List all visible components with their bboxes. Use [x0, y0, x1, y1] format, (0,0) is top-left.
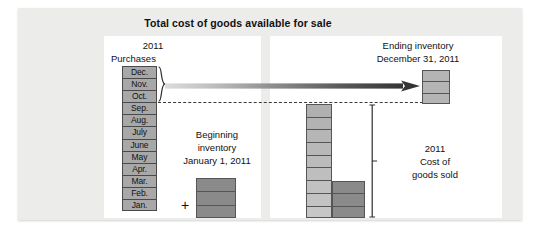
cogs-light-segment: [306, 129, 332, 142]
beginning-inventory-line1: Beginning: [164, 128, 270, 141]
month-cell: Apr.: [122, 163, 157, 175]
cogs-line1: 2011: [380, 142, 490, 155]
cogs-dark-segment: [332, 206, 365, 218]
cogs-light-segment: [306, 117, 332, 130]
cogs-light-stack: [306, 104, 332, 218]
cogs-light-segment: [306, 142, 332, 155]
purchases-month-stack: Dec.Nov.Oct.Sep.Aug.JulyJuneMayApr.Mar.F…: [122, 66, 157, 211]
flow-arrow-icon: [165, 78, 420, 90]
dashed-divider-icon: [158, 102, 423, 103]
figure-frame: Total cost of goods available for sale 2…: [18, 8, 522, 220]
beginning-inventory-segment: [196, 191, 236, 204]
ending-inventory-segment: [422, 70, 450, 81]
cogs-dark-segment: [332, 181, 365, 193]
beginning-inventory-label: Beginning inventory January 1, 2011: [164, 128, 270, 167]
ending-inventory-label: Ending inventory December 31, 2011: [348, 40, 488, 65]
purchases-year: 2011: [110, 40, 196, 53]
month-cell: July: [122, 126, 157, 138]
month-cell: Mar.: [122, 175, 157, 187]
beginning-inventory-line3: January 1, 2011: [164, 154, 270, 167]
cogs-light-segment: [306, 104, 332, 117]
cogs-light-segment: [306, 193, 332, 206]
square-bracket-icon: [368, 104, 378, 218]
month-cell: Jan.: [122, 199, 157, 211]
ending-inventory-line1: Ending inventory: [348, 40, 488, 53]
cogs-light-segment: [306, 180, 332, 193]
ending-inventory-block: [422, 70, 450, 104]
cogs-light-segment: [306, 167, 332, 180]
month-cell: Aug.: [122, 114, 157, 126]
beginning-inventory-segment: [196, 178, 236, 191]
diagram-title: Total cost of goods available for sale: [18, 17, 458, 29]
cogs-dark-stack: [332, 181, 365, 218]
cogs-dark-segment: [332, 193, 365, 205]
cogs-light-segment: [306, 155, 332, 168]
month-cell: Feb.: [122, 187, 157, 199]
cost-of-goods-sold-label: 2011 Cost of goods sold: [380, 142, 490, 181]
month-cell: Oct.: [122, 90, 157, 102]
beginning-inventory-segment: [196, 205, 236, 218]
purchases-heading: 2011 Purchases: [110, 40, 196, 65]
ending-inventory-line2: December 31, 2011: [348, 53, 488, 66]
plus-icon: +: [181, 198, 189, 212]
ending-inventory-segment: [422, 93, 450, 104]
beginning-inventory-line2: inventory: [164, 141, 270, 154]
month-cell: Nov.: [122, 78, 157, 90]
month-cell: Dec.: [122, 66, 157, 78]
cogs-light-segment: [306, 206, 332, 219]
month-cell: May: [122, 151, 157, 163]
cogs-line2: Cost of: [380, 155, 490, 168]
ending-inventory-segment: [422, 81, 450, 92]
purchases-label: Purchases: [110, 53, 196, 66]
beginning-inventory-block: [196, 178, 236, 218]
cogs-line3: goods sold: [380, 168, 490, 181]
month-cell: June: [122, 139, 157, 151]
month-cell: Sep.: [122, 102, 157, 114]
